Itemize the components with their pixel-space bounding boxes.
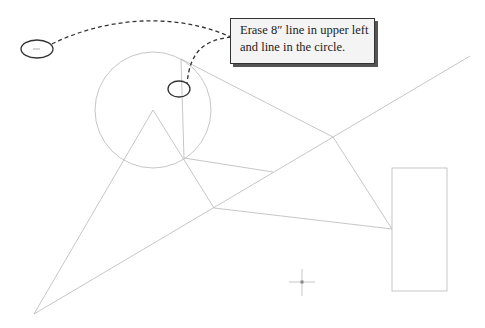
triangle-left-edge[interactable] [34,110,153,314]
right-descending-line[interactable] [333,137,392,229]
callout-line-1: Erase 8″ line in upper left [240,22,374,39]
drawing-canvas[interactable]: Erase 8″ line in upper left and line in … [0,0,485,328]
crosshair-center-icon [301,281,304,284]
long-diagonal-line[interactable] [34,56,470,314]
leader-line-circle [187,37,231,84]
inner-short-line[interactable] [184,158,273,172]
rectangle-shape[interactable] [392,168,447,291]
triangle-right-edge[interactable] [153,110,214,208]
vertical-line-in-circle[interactable] [181,59,184,158]
upper-slanted-line[interactable] [181,59,333,137]
callout-note: Erase 8″ line in upper left and line in … [230,18,375,64]
bottom-line[interactable] [214,208,392,229]
leader-line-upper-left [52,21,231,44]
callout-line-2: and line in the circle. [240,39,374,56]
